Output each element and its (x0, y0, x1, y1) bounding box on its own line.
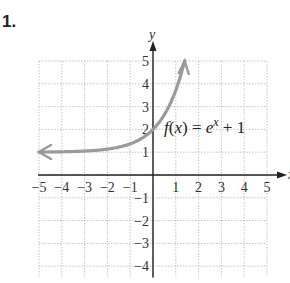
x-tick-label: −4 (54, 180, 69, 195)
y-tick-label: 3 (142, 100, 149, 115)
y-tick-label: −4 (134, 259, 149, 274)
y-tick-label: 1 (142, 145, 149, 160)
x-axis-arrow-icon (277, 172, 287, 179)
x-tick-label: 2 (195, 180, 202, 195)
tick-labels: −5−4−3−2−112345−4−3−2−112345 (32, 54, 271, 274)
x-axis-label: x (287, 167, 290, 182)
y-tick-label: 4 (142, 77, 149, 92)
x-tick-label: 3 (218, 180, 225, 195)
x-tick-label: −5 (32, 180, 47, 195)
y-axis-arrow-icon (150, 41, 157, 51)
y-tick-label: −3 (134, 236, 149, 251)
y-tick-label: 5 (142, 54, 149, 69)
y-tick-label: −1 (134, 191, 149, 206)
x-tick-label: −3 (77, 180, 92, 195)
x-tick-label: 5 (264, 180, 271, 195)
y-axis-label: y (147, 27, 156, 42)
x-tick-label: 1 (172, 180, 179, 195)
function-label: f(x) = ex + 1 (164, 115, 245, 137)
x-tick-label: −2 (100, 180, 115, 195)
y-tick-label: −2 (134, 214, 149, 229)
function-graph: xy −5−4−3−2−112345−4−3−2−112345 f(x) = e… (0, 0, 290, 283)
x-tick-label: 4 (241, 180, 248, 195)
